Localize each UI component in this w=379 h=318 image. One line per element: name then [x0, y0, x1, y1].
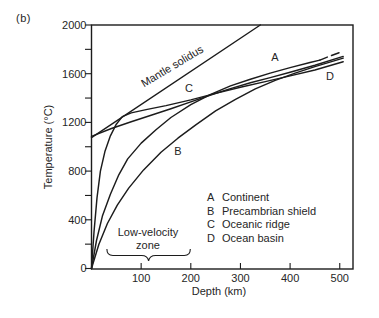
legend-item-continent: AContinent: [207, 191, 316, 205]
legend-label: Continent: [222, 191, 269, 203]
legend-key: C: [207, 218, 222, 232]
curve-C: [92, 56, 344, 136]
legend-item-oceanic-ridge: COceanic ridge: [207, 218, 316, 232]
y-tick-label: 800: [68, 165, 86, 177]
curve-label-B: B: [174, 145, 181, 157]
lvz-line1: Low-velocity: [118, 226, 179, 239]
curve-label-A: A: [271, 51, 279, 63]
geotherm-figure: 1002003004005000400800120016002000ABCD (…: [0, 0, 379, 318]
curve-label-D: D: [326, 70, 334, 82]
legend-key: A: [207, 191, 222, 205]
curve-mantle-solidus: [92, 25, 261, 138]
y-tick-label: 1200: [62, 116, 86, 128]
y-tick-label: 400: [68, 214, 86, 226]
y-axis-title: Temperature (°C): [42, 105, 54, 189]
legend-key: D: [207, 232, 222, 246]
legend-label: Precambrian shield: [222, 205, 316, 217]
x-axis-title: Depth (km): [192, 285, 246, 297]
legend: AContinent BPrecambrian shield COceanic …: [207, 191, 316, 245]
low-velocity-zone-label: Low-velocity zone: [118, 226, 179, 252]
x-tick-label: 300: [231, 272, 249, 284]
legend-item-precambrian-shield: BPrecambrian shield: [207, 205, 316, 219]
legend-item-ocean-basin: DOcean basin: [207, 232, 316, 246]
legend-label: Ocean basin: [222, 232, 284, 244]
legend-label: Oceanic ridge: [222, 218, 290, 230]
legend-key: B: [207, 205, 222, 219]
x-tick-label: 100: [132, 272, 150, 284]
x-tick-label: 500: [331, 272, 349, 284]
x-tick-label: 400: [281, 272, 299, 284]
x-tick-label: 200: [182, 272, 200, 284]
y-tick-label: 1600: [62, 68, 86, 80]
curve-label-C: C: [185, 82, 193, 94]
panel-label: (b): [16, 12, 31, 24]
y-tick-label: 0: [80, 262, 86, 274]
lvz-line2: zone: [118, 239, 179, 252]
y-tick-label: 2000: [62, 19, 86, 31]
